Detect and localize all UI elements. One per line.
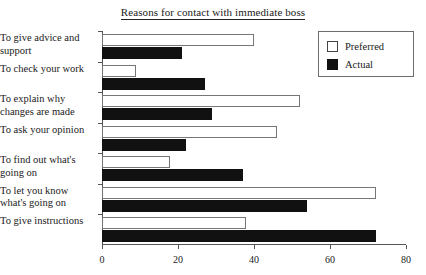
chart-title-text: Reasons for contact with immediate boss (121, 6, 305, 20)
category-label: To give advice and support (0, 32, 94, 57)
bar-preferred (102, 95, 300, 107)
legend-item-preferred: Preferred (327, 37, 413, 55)
x-tick-label-20: 20 (173, 254, 183, 265)
actual-swatch-icon (327, 59, 338, 70)
bar-preferred (102, 126, 277, 138)
x-tick-label-0: 0 (100, 254, 105, 265)
chart-legend: Preferred Actual (318, 31, 414, 77)
category-label: To find out what's going on (0, 154, 94, 179)
bar-preferred (102, 187, 376, 199)
x-tick-label-80: 80 (401, 254, 411, 265)
bar-actual (102, 230, 376, 242)
bar-preferred (102, 34, 254, 46)
category-label: To give instructions (0, 215, 94, 228)
x-tick-label-40: 40 (249, 254, 259, 265)
category-label: To ask your opinion (0, 124, 94, 137)
x-tick-0 (102, 245, 103, 249)
bar-preferred (102, 156, 170, 168)
x-tick-80 (406, 245, 407, 249)
x-tick-60 (330, 245, 331, 249)
legend-item-actual: Actual (327, 55, 413, 73)
bar-actual (102, 200, 307, 212)
bar-actual (102, 139, 186, 151)
bar-actual (102, 108, 212, 120)
bar-actual (102, 169, 243, 181)
bar-preferred (102, 65, 136, 77)
category-label: To check your work (0, 63, 94, 76)
x-tick-20 (178, 245, 179, 249)
x-tick-label-60: 60 (325, 254, 335, 265)
bar-actual (102, 78, 205, 90)
bar-actual (102, 47, 182, 59)
category-label: To explain why changes are made (0, 93, 94, 118)
bar-chart: Reasons for contact with immediate boss … (0, 0, 426, 275)
bar-group (102, 92, 406, 123)
preferred-swatch-icon (327, 41, 338, 52)
bar-group (102, 214, 406, 245)
chart-title: Reasons for contact with immediate boss (0, 6, 426, 18)
bar-group (102, 123, 406, 154)
legend-label-actual: Actual (345, 59, 373, 70)
bar-group (102, 184, 406, 215)
legend-label-preferred: Preferred (345, 41, 384, 52)
x-tick-40 (254, 245, 255, 249)
bar-preferred (102, 217, 246, 229)
category-label: To let you know what's going on (0, 185, 94, 210)
bar-group (102, 153, 406, 184)
